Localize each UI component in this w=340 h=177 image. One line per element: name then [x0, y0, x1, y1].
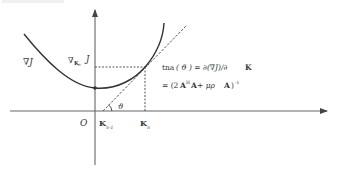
- angle-label: ϑ: [118, 102, 124, 111]
- svg-text:n: n: [147, 125, 150, 130]
- svg-text:tna: tna: [162, 63, 175, 72]
- svg-text:H: H: [186, 80, 190, 85]
- svg-text:): ): [231, 81, 234, 90]
- svg-text:+ μρ: + μρ: [197, 81, 216, 90]
- svg-text:A: A: [190, 81, 197, 90]
- angle-arc: [109, 105, 113, 111]
- k-prev-label: K n-1: [99, 118, 113, 130]
- caption-remnant: [2, 0, 64, 3]
- j-label: J: [84, 54, 90, 64]
- curve-label: ∇J: [23, 57, 34, 67]
- curve-minimum-point: [93, 86, 97, 90]
- svg-text:K: K: [245, 63, 252, 72]
- svg-text:-1: -1: [235, 80, 240, 85]
- svg-text:= (2: = (2: [162, 81, 179, 90]
- formula-line-1: tna ( ϑ ) = ∂(∇J)/∂ K: [162, 63, 252, 72]
- svg-text:A: A: [179, 81, 186, 90]
- origin-label: O: [80, 118, 88, 128]
- svg-text:n: n: [78, 62, 81, 67]
- formula-line-2: = (2 A H A + μρ A ) -1: [162, 80, 240, 90]
- svg-text:( ϑ ) = ∂(∇J)/∂: ( ϑ ) = ∂(∇J)/∂: [176, 63, 228, 72]
- gradient-curve: [24, 23, 164, 88]
- gradient-at-kn-label: ∇ K n: [68, 56, 81, 67]
- svg-text:n-1: n-1: [106, 125, 113, 130]
- tangent-newton-step-diagram: ∇J ∇ K n J ϑ O K n-1 K n tna ( ϑ ) = ∂(∇…: [0, 0, 340, 177]
- tangent-line: [103, 25, 187, 111]
- svg-text:A: A: [223, 81, 230, 90]
- k-n-label: K n: [140, 118, 150, 130]
